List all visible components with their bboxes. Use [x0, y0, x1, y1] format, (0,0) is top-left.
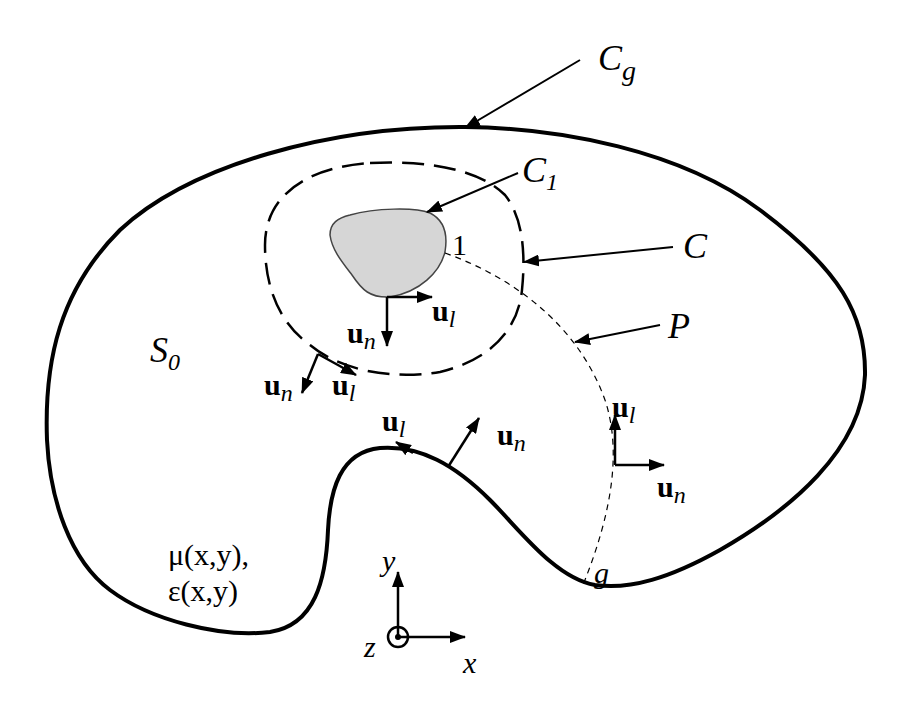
label-axis-x: x: [463, 648, 476, 678]
c-leader-arrow: [524, 247, 673, 262]
obstacle-c1: [330, 209, 446, 297]
cg-leader-arrow: [465, 60, 580, 128]
label-c: C: [683, 228, 707, 264]
label-point-1: 1: [452, 230, 467, 260]
label-p: P: [668, 308, 690, 344]
label-ul-path: ul: [612, 392, 635, 422]
label-un-boundary: un: [497, 420, 526, 450]
un-arrow-boundary: [448, 418, 479, 467]
label-material-mu: μ(x,y),: [168, 540, 249, 570]
label-c1: C1: [522, 152, 558, 188]
label-ul-obstacle: ul: [432, 296, 455, 326]
label-material-eps: ε(x,y): [168, 576, 238, 606]
diagram-canvas: [0, 0, 911, 703]
label-axis-y: y: [382, 546, 395, 576]
p-leader-arrow: [575, 325, 660, 342]
label-ul-contour: ul: [332, 370, 355, 400]
label-cg: Cg: [598, 40, 636, 76]
un-arrow-contour: [302, 354, 318, 393]
label-ul-boundary: ul: [382, 406, 405, 436]
c1-leader-arrow: [427, 173, 518, 212]
label-s0: S0: [150, 332, 180, 368]
label-axis-z: z: [364, 632, 376, 662]
label-un-obstacle: un: [347, 318, 376, 348]
label-un-path: un: [657, 472, 686, 502]
label-point-g: g: [594, 558, 609, 588]
path-p: [445, 253, 613, 585]
label-un-contour: un: [264, 370, 293, 400]
